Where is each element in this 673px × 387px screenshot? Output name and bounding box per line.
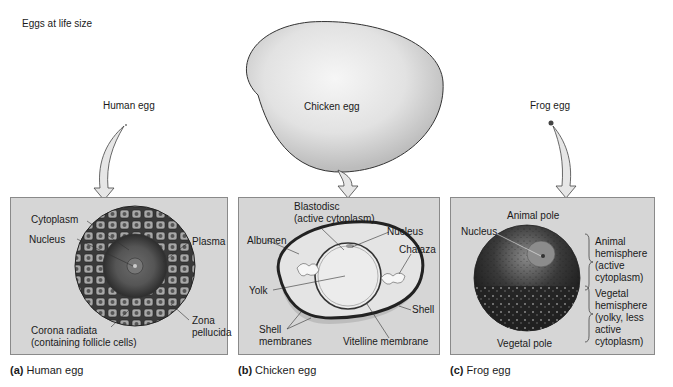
label-albumen: Albumen bbox=[247, 235, 286, 247]
caption-text: Human egg bbox=[27, 364, 84, 376]
label-vegetal-pole: Vegetal pole bbox=[497, 338, 552, 350]
label-nucleus: Nucleus bbox=[461, 226, 497, 238]
label-animal-hemisphere-4: cytoplasm) bbox=[595, 272, 643, 284]
caption-chicken-egg: (b) Chicken egg bbox=[238, 364, 316, 376]
label-vitelline-membrane: Vitelline membrane bbox=[343, 336, 428, 348]
caption-frog-egg: (c) Frog egg bbox=[450, 364, 511, 376]
label-vegetal-hemisphere-3: (yolky, less bbox=[595, 312, 644, 324]
label-vegetal-hemisphere-2: hemisphere bbox=[595, 300, 647, 312]
caption-human-egg: (a) Human egg bbox=[10, 364, 83, 376]
label-animal-hemisphere-3: (active bbox=[595, 260, 624, 272]
label-shell-membranes-1: Shell bbox=[259, 324, 281, 336]
caption-text: Frog egg bbox=[467, 364, 511, 376]
label-follicle-cells: (containing follicle cells) bbox=[31, 337, 137, 349]
label-pellucida: pellucida bbox=[192, 327, 231, 339]
label-plasma: Plasma bbox=[192, 236, 225, 248]
label-animal-hemisphere-2: hemisphere bbox=[595, 248, 647, 260]
panel-frog-egg: Animal pole Nucleus Animal hemisphere (a… bbox=[450, 197, 655, 355]
label-vegetal-hemisphere-5: cytoplasm) bbox=[595, 336, 643, 348]
label-animal-hemisphere-1: Animal bbox=[595, 236, 626, 248]
label-vegetal-hemisphere-1: Vegetal bbox=[595, 288, 628, 300]
label-chalaza: Chalaza bbox=[399, 244, 436, 256]
panel-chicken-egg: Blastodisc (active cytoplasm) Nucleus Al… bbox=[238, 197, 440, 355]
caption-letter: (c) bbox=[450, 364, 463, 376]
caption-letter: (b) bbox=[238, 364, 252, 376]
chicken-egg-top-label: Chicken egg bbox=[304, 101, 360, 113]
label-blastodisc: Blastodisc bbox=[294, 201, 340, 213]
label-nucleus: Nucleus bbox=[29, 234, 65, 246]
caption-letter: (a) bbox=[10, 364, 23, 376]
label-zona: Zona bbox=[192, 315, 215, 327]
label-shell: Shell bbox=[412, 304, 434, 316]
label-vegetal-hemisphere-4: active bbox=[595, 324, 621, 336]
label-animal-pole: Animal pole bbox=[507, 210, 559, 222]
label-yolk: Yolk bbox=[249, 285, 268, 297]
label-cytoplasm: Cytoplasm bbox=[31, 214, 78, 226]
frog-egg-top-label: Frog egg bbox=[530, 100, 570, 112]
panel-human-egg: Cytoplasm Nucleus Plasma Zona pellucida … bbox=[10, 197, 228, 355]
label-shell-membranes-2: membranes bbox=[259, 336, 312, 348]
label-active-cytoplasm: (active cytoplasm) bbox=[294, 213, 375, 225]
caption-text: Chicken egg bbox=[255, 364, 316, 376]
label-nucleus: Nucleus bbox=[387, 226, 423, 238]
label-corona-radiata: Corona radiata bbox=[31, 325, 97, 337]
